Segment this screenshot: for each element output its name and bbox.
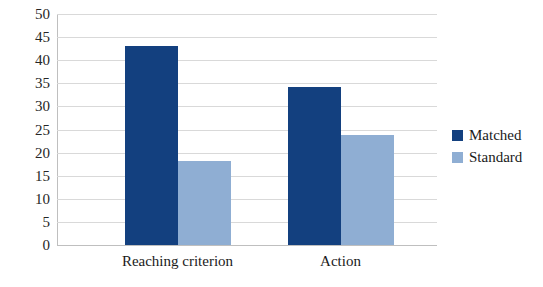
gridline (57, 83, 437, 84)
axis-baseline (57, 245, 437, 246)
chart-legend: MatchedStandard (452, 124, 540, 168)
legend-swatch-icon (452, 152, 463, 163)
y-axis-tick-label: 30 (4, 99, 50, 114)
bar-matched-action (288, 87, 341, 245)
gridline (57, 37, 437, 38)
legend-item-label: Standard (469, 149, 522, 165)
gridline (57, 60, 437, 61)
y-axis-tick-labels: 50454035302520151050 (0, 14, 50, 245)
y-axis-tick-label: 20 (4, 145, 50, 160)
y-axis-tick-label: 40 (4, 53, 50, 68)
bar-chart: 50454035302520151050 Reaching criterionA… (0, 0, 543, 287)
gridline (57, 130, 437, 131)
bar-matched-reaching-criterion (125, 46, 178, 245)
x-axis-category-label: Action (241, 252, 441, 270)
legend-item-matched[interactable]: Matched (452, 124, 540, 146)
y-axis-tick-label: 0 (4, 238, 50, 253)
gridline (57, 14, 437, 15)
y-axis-tick-label: 15 (4, 168, 50, 183)
bar-standard-reaching-criterion (178, 161, 231, 245)
legend-swatch-icon (452, 130, 463, 141)
bar-standard-action (341, 135, 394, 245)
gridline (57, 106, 437, 107)
y-axis-tick-label: 5 (4, 214, 50, 229)
plot-area (57, 14, 437, 245)
legend-item-standard[interactable]: Standard (452, 146, 540, 168)
legend-item-label: Matched (469, 127, 521, 143)
y-axis-tick-label: 35 (4, 76, 50, 91)
y-axis-tick-label: 10 (4, 191, 50, 206)
y-axis-tick-label: 50 (4, 7, 50, 22)
y-axis-tick-label: 25 (4, 122, 50, 137)
y-axis-tick-label: 45 (4, 30, 50, 45)
